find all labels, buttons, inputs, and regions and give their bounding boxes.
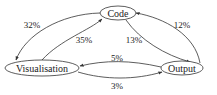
- node-output-label: Output: [168, 63, 196, 74]
- edge-output-to-code: [136, 13, 200, 63]
- edge-label-output-to-code: 12%: [174, 20, 191, 30]
- edge-label-visualisation-to-code: 35%: [76, 35, 93, 45]
- node-visualisation: Visualisation: [5, 60, 79, 76]
- flow-diagram: Code Visualisation Output 32% 35% 13% 12…: [0, 0, 217, 95]
- node-output: Output: [161, 61, 203, 75]
- node-code: Code: [100, 6, 136, 20]
- edge-label-output-to-visualisation: 5%: [111, 53, 124, 63]
- edge-label-visualisation-to-output: 3%: [111, 81, 124, 91]
- edge-label-code-to-visualisation: 32%: [24, 20, 41, 30]
- node-visualisation-label: Visualisation: [16, 63, 68, 74]
- edge-label-code-to-output: 13%: [126, 35, 143, 45]
- edge-visualisation-to-output: [78, 72, 162, 78]
- node-code-label: Code: [107, 8, 129, 19]
